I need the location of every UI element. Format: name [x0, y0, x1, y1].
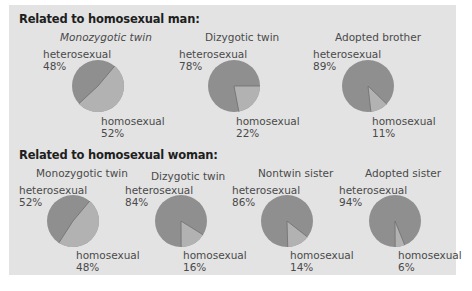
- pie: [155, 195, 207, 247]
- pie: [369, 195, 421, 247]
- hetero-label: heterosexual: [313, 48, 381, 60]
- homo-pct: 48%: [76, 261, 99, 273]
- pie: [261, 195, 313, 247]
- homo-label: homosexual: [236, 115, 300, 127]
- pie: [208, 60, 260, 112]
- homo-pct: 22%: [236, 127, 259, 139]
- homo-label: homosexual: [101, 115, 165, 127]
- pie: [342, 60, 394, 112]
- hetero-pct: 48%: [43, 60, 66, 72]
- chart-title: Monozygotic twin: [36, 167, 128, 179]
- chart-title: Adopted sister: [365, 167, 441, 179]
- homo-pct: 14%: [290, 261, 313, 273]
- homo-pct: 16%: [183, 261, 206, 273]
- hetero-pct: 89%: [313, 60, 336, 72]
- chart-title: Dizygotic twin: [151, 170, 225, 182]
- homo-label: homosexual: [183, 249, 247, 261]
- hetero-pct: 78%: [179, 60, 202, 72]
- hetero-pct: 52%: [19, 196, 42, 208]
- section-title-woman: Related to homosexual woman:: [19, 148, 218, 162]
- homo-label: homosexual: [290, 249, 354, 261]
- chart-title: Adopted brother: [335, 31, 421, 43]
- homo-label: homosexual: [398, 249, 462, 261]
- homo-pct: 11%: [372, 127, 395, 139]
- pie: [47, 195, 99, 247]
- hetero-pct: 94%: [339, 196, 362, 208]
- chart-title: Dizygotic twin: [205, 31, 279, 43]
- pie: [72, 60, 124, 112]
- homo-pct: 6%: [398, 261, 415, 273]
- homo-label: homosexual: [372, 115, 436, 127]
- hetero-pct: 84%: [125, 196, 148, 208]
- chart-title: Nontwin sister: [258, 167, 333, 179]
- hetero-label: heterosexual: [43, 48, 111, 60]
- homo-pct: 52%: [101, 127, 124, 139]
- hetero-pct: 86%: [232, 196, 255, 208]
- hetero-label: heterosexual: [179, 48, 247, 60]
- homo-label: homosexual: [76, 249, 140, 261]
- chart-title: Monozygotic twin: [60, 31, 152, 43]
- section-title-man: Related to homosexual man:: [19, 12, 200, 26]
